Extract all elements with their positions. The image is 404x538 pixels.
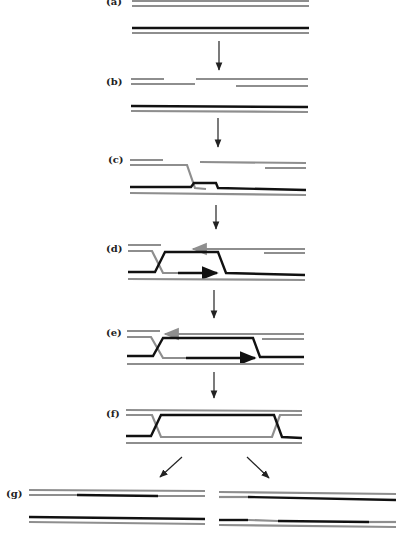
panel-g: (g) — [6, 488, 396, 527]
panel-label-b: (b) — [106, 76, 122, 87]
arrow-diag-right — [247, 457, 269, 478]
panel-b: (b) — [106, 76, 308, 112]
panel-label-e: (e) — [106, 327, 122, 338]
panel-label-f: (f) — [106, 408, 120, 419]
product-left — [29, 490, 205, 524]
panel-e: (e) — [106, 327, 304, 364]
panel-c: (c) — [108, 154, 306, 195]
product-right — [219, 492, 396, 527]
panel-label-a: (a) — [106, 0, 122, 7]
panel-label-c: (c) — [108, 154, 124, 165]
arrow-diag-left — [160, 457, 182, 477]
recombination-diagram: (a) (b) (c) (d) ( — [0, 0, 404, 538]
panel-f: (f) — [106, 408, 302, 443]
panel-label-d: (d) — [106, 243, 122, 254]
panel-label-g: (g) — [6, 488, 22, 499]
panel-d: (d) — [106, 243, 305, 280]
panel-a: (a) — [106, 0, 309, 33]
